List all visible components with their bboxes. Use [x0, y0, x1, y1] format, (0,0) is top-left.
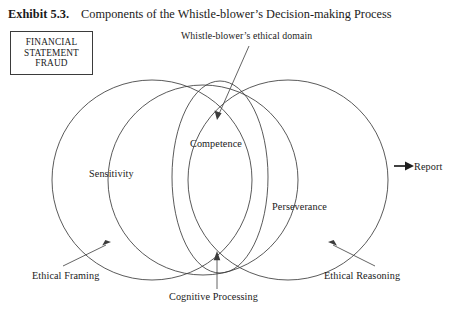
callout-label-cognitive-processing: Cognitive Processing: [169, 291, 258, 302]
circle-inner-left-sensitivity: [108, 85, 298, 275]
callout-label-ethical-framing: Ethical Framing: [32, 270, 99, 281]
circle-left-ethical-framing: [52, 80, 252, 280]
venn-diagram-canvas: [0, 0, 456, 314]
ethical-framing-arrowhead-icon: [102, 240, 111, 246]
ethical-reasoning-arrowhead-icon: [328, 240, 337, 246]
region-label-perseverance: Perseverance: [272, 201, 327, 212]
annotation-whistle-blower-ethical-domain: Whistle-blower’s ethical domain: [181, 30, 312, 41]
region-label-sensitivity: Sensitivity: [89, 168, 134, 179]
exhibit-diagram: Exhibit 5.3.Components of the Whistle-bl…: [0, 0, 456, 314]
region-label-competence: Competence: [190, 138, 242, 149]
circle-right-ethical-reasoning: [188, 80, 388, 280]
annotation-arrowhead-icon: [215, 111, 222, 120]
report-arrowhead-icon: [405, 161, 414, 170]
annotation-leader-line: [219, 46, 249, 114]
ethical-reasoning-leader-line: [333, 245, 375, 266]
ethical-framing-leader-line: [63, 245, 106, 266]
output-label-report: Report: [414, 161, 442, 172]
ellipse-competence: [172, 81, 268, 273]
callout-label-ethical-reasoning: Ethical Reasoning: [324, 270, 400, 281]
